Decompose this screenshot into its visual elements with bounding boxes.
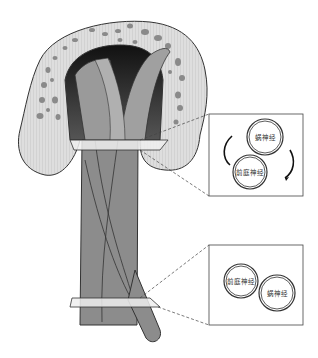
lower-inset-box xyxy=(209,245,303,325)
upper-top-circle-label: 蜗神经 xyxy=(255,132,276,142)
upper-cut-plane xyxy=(70,140,168,150)
upper-inset-box xyxy=(209,114,303,196)
anatomy-diagram xyxy=(0,0,318,358)
lower-left-circle-label: 前庭神经 xyxy=(227,276,255,286)
lower-right-circle-label: 蜗神经 xyxy=(267,288,288,298)
upper-bottom-circle-label: 前庭神经 xyxy=(236,167,264,177)
lower-cut-plane xyxy=(70,298,160,307)
